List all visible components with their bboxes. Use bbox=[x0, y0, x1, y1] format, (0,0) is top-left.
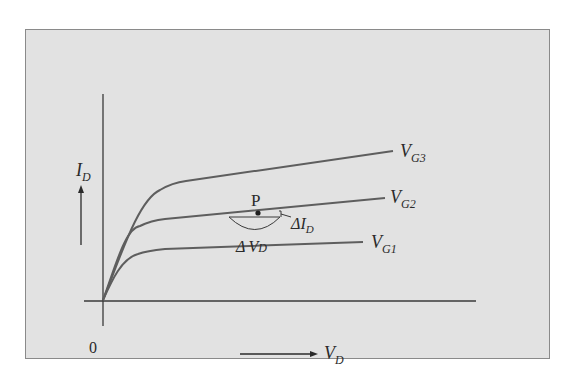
delta-id-label: ΔID bbox=[290, 215, 314, 235]
delta-vd-arc bbox=[229, 217, 280, 230]
delta-id-leader bbox=[281, 214, 291, 217]
delta-id-bracket bbox=[279, 211, 281, 217]
characteristic-diagram: 0 ID VD VG3 VG2 VG1 P ΔID ΔVD bbox=[0, 0, 569, 380]
curve-vg3 bbox=[103, 151, 393, 300]
curve-label-vg2: VG2 bbox=[390, 187, 416, 211]
operating-point-p bbox=[255, 210, 260, 215]
arrow-right-icon bbox=[310, 351, 318, 357]
curve-label-vg1: VG1 bbox=[371, 232, 397, 256]
y-axis-label: ID bbox=[75, 160, 91, 184]
curve-vg1 bbox=[103, 242, 363, 300]
curve-label-vg3: VG3 bbox=[400, 141, 426, 165]
x-axis-label: VD bbox=[324, 343, 344, 367]
point-p-label: P bbox=[251, 191, 260, 210]
arrow-up-icon bbox=[78, 185, 84, 193]
origin-label: 0 bbox=[89, 339, 97, 356]
delta-vd-label: ΔVD bbox=[235, 238, 267, 255]
